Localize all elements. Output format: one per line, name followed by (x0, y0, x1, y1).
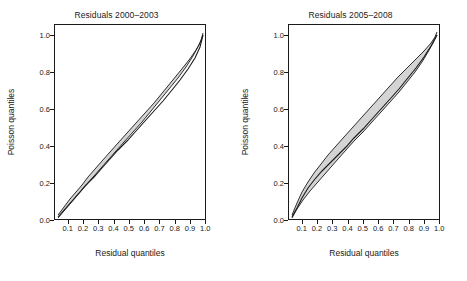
band-upper-line-left (58, 33, 203, 215)
x-tick-labels-right: 0.1 0.2 0.3 0.4 0.5 0.6 0.7 0.8 0.9 1.0 (288, 224, 440, 238)
y-tick-label: 1.0 (24, 31, 50, 40)
y-tick-label: 0.8 (258, 67, 284, 76)
y-tick-label: 0.2 (258, 178, 284, 187)
y-tick-label: 0.2 (24, 178, 50, 187)
x-tick-label: 0.3 (327, 224, 337, 233)
x-tick-label: 0.2 (312, 224, 322, 233)
x-tick-label: 0.5 (124, 224, 134, 233)
plot-area-left (54, 24, 206, 220)
x-axis-label-right: Residual quantiles (288, 248, 440, 258)
y-axis-label-right: Poisson quantiles (238, 24, 252, 220)
x-tick-label: 1.0 (200, 224, 210, 233)
figure-root: Residuals 2000–2003 Poisson quantiles 0.… (0, 0, 467, 281)
x-tick-labels-left: 0.1 0.2 0.3 0.4 0.5 0.6 0.7 0.8 0.9 1.0 (54, 224, 206, 238)
panel-title-right: Residuals 2005–2008 (234, 10, 467, 20)
y-tick-labels-right: 0.0 0.2 0.4 0.6 0.8 1.0 (256, 24, 284, 220)
x-tick-label: 0.6 (139, 224, 149, 233)
x-tick-label: 0.7 (154, 224, 164, 233)
confidence-band-left (58, 33, 203, 218)
y-tick-labels-left: 0.0 0.2 0.4 0.6 0.8 1.0 (22, 24, 50, 220)
x-tick-label: 0.8 (403, 224, 413, 233)
chart-panel-left: Residuals 2000–2003 Poisson quantiles 0.… (0, 0, 233, 281)
x-tick-label: 0.1 (62, 224, 72, 233)
y-tick-label: 0.4 (24, 141, 50, 150)
y-tick-label: 0.6 (24, 104, 50, 113)
plot-area-right (288, 24, 440, 220)
y-tick-label: 0.0 (24, 215, 50, 224)
y-tick-label: 0.0 (258, 215, 284, 224)
x-axis-label-left: Residual quantiles (54, 248, 206, 258)
x-tick-label: 0.5 (358, 224, 368, 233)
x-tick-label: 0.8 (169, 224, 179, 233)
x-tick-label: 0.1 (296, 224, 306, 233)
qq-plot-left (55, 25, 205, 219)
qq-plot-right (289, 25, 439, 219)
y-tick-label: 0.8 (24, 67, 50, 76)
x-tick-label: 0.7 (388, 224, 398, 233)
x-tick-label: 0.6 (373, 224, 383, 233)
x-tick-label: 0.3 (93, 224, 103, 233)
x-tick-label: 0.2 (78, 224, 88, 233)
x-tick-label: 1.0 (434, 224, 444, 233)
y-tick-label: 0.4 (258, 141, 284, 150)
x-tick-label: 0.9 (419, 224, 429, 233)
x-tick-label: 0.9 (185, 224, 195, 233)
y-tick-label: 0.6 (258, 104, 284, 113)
x-tick-label: 0.4 (342, 224, 352, 233)
x-tick-label: 0.4 (108, 224, 118, 233)
y-tick-label: 1.0 (258, 31, 284, 40)
panel-title-left: Residuals 2000–2003 (0, 10, 233, 20)
chart-panel-right: Residuals 2005–2008 Poisson quantiles 0.… (234, 0, 467, 281)
y-axis-label-left: Poisson quantiles (4, 24, 18, 220)
